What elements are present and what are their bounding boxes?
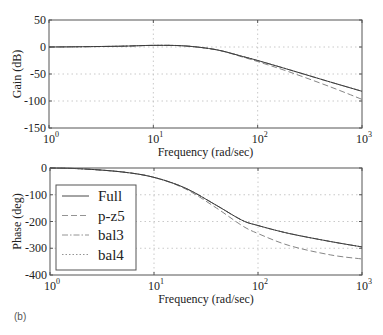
legend-label: p-z5 bbox=[98, 208, 125, 224]
x-tick-label: 101 bbox=[148, 277, 164, 293]
y-tick-label: 0 bbox=[41, 161, 47, 175]
figure-caption: (b) bbox=[14, 311, 26, 322]
y-tick-label: -300 bbox=[25, 241, 47, 255]
legend-label: bal3 bbox=[98, 227, 124, 243]
y-tick-label: -100 bbox=[25, 188, 47, 202]
y-tick-label: -200 bbox=[25, 215, 47, 229]
y-tick-label: -100 bbox=[24, 94, 46, 108]
x-tick-label: 103 bbox=[356, 130, 372, 146]
x-tick-label: 100 bbox=[44, 277, 60, 293]
gain-plot: 500-50-100-150100101102103Frequency (rad… bbox=[10, 13, 372, 159]
legend: Fullp-z5bal3bal4 bbox=[56, 185, 136, 270]
phase-plot: 0-100-200-300-400100101102103Frequency (… bbox=[10, 161, 372, 306]
x-axis-label: Frequency (rad/sec) bbox=[158, 292, 254, 306]
legend-label: Full bbox=[98, 188, 122, 204]
series-bal3 bbox=[49, 45, 362, 91]
y-axis-label: Gain (dB) bbox=[10, 50, 24, 98]
y-tick-label: -50 bbox=[30, 67, 46, 81]
x-tick-label: 101 bbox=[147, 130, 163, 146]
series-p-z5 bbox=[49, 45, 362, 99]
y-axis-label: Phase (deg) bbox=[10, 193, 24, 249]
x-axis-label: Frequency (rad/sec) bbox=[158, 145, 254, 159]
x-tick-label: 100 bbox=[43, 130, 59, 146]
x-tick-label: 103 bbox=[356, 277, 372, 293]
legend-label: bal4 bbox=[98, 247, 124, 263]
y-tick-label: 50 bbox=[34, 13, 46, 27]
series-Full bbox=[49, 45, 362, 91]
series-bal4 bbox=[49, 45, 362, 91]
bode-plot-figure: 500-50-100-150100101102103Frequency (rad… bbox=[0, 0, 383, 335]
y-tick-label: 0 bbox=[40, 40, 46, 54]
x-tick-label: 102 bbox=[252, 130, 268, 146]
x-tick-label: 102 bbox=[252, 277, 268, 293]
